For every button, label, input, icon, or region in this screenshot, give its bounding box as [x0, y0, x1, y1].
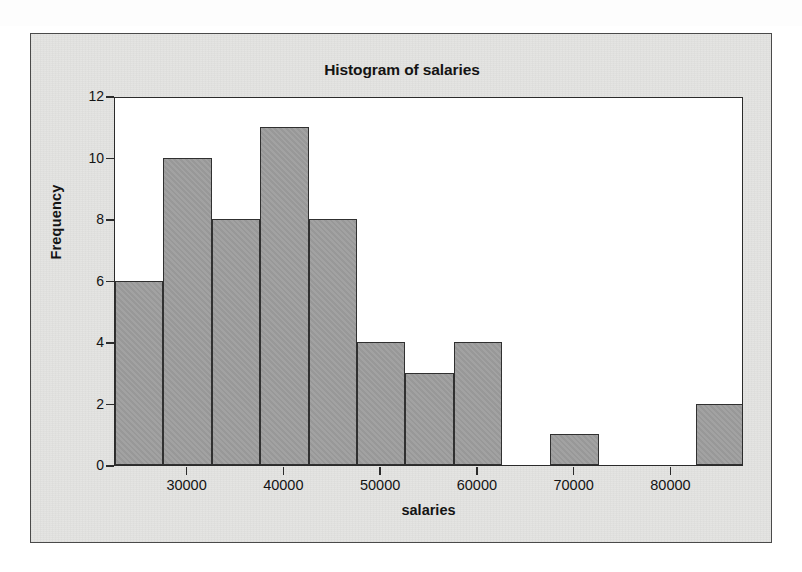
y-axis-tick: [106, 342, 114, 344]
histogram-bar: [550, 434, 598, 465]
x-axis-tick: [283, 467, 285, 475]
histogram-bar: [115, 281, 163, 466]
scan-artifact-top: [0, 0, 802, 26]
x-axis-tick-label: 30000: [142, 477, 232, 493]
y-axis-tick: [106, 281, 114, 283]
y-axis-tick: [106, 96, 114, 98]
x-axis-tick-label: 50000: [335, 477, 425, 493]
x-axis-title: salaries: [114, 502, 743, 518]
x-axis-tick-label: 80000: [625, 477, 715, 493]
x-axis-tick: [379, 467, 381, 475]
y-axis-tick-label: 10: [64, 150, 104, 166]
y-axis-tick-label: 4: [64, 334, 104, 350]
histogram-bar: [260, 127, 308, 465]
y-axis-tick-label: 6: [64, 273, 104, 289]
x-axis-tick: [476, 467, 478, 475]
histogram-bar: [212, 219, 260, 465]
histogram-bar: [309, 219, 357, 465]
histogram-bar: [357, 342, 405, 465]
y-axis-tick: [106, 219, 114, 221]
histogram-figure: Histogram of salaries 024681012 30000400…: [30, 33, 772, 543]
y-axis-tick: [106, 465, 114, 467]
histogram-bars: [115, 98, 742, 465]
y-axis-tick-label: 12: [64, 88, 104, 104]
y-axis-tick: [106, 158, 114, 160]
x-axis-tick: [670, 467, 672, 475]
x-axis-tick-label: 60000: [432, 477, 522, 493]
x-axis-tick: [573, 467, 575, 475]
histogram-bar: [405, 373, 453, 465]
plot-area: [114, 97, 743, 466]
y-axis-tick-label: 2: [64, 396, 104, 412]
y-axis-tick-label: 0: [64, 457, 104, 473]
chart-title: Histogram of salaries: [31, 61, 773, 79]
histogram-bar: [163, 158, 211, 466]
x-axis-tick-label: 40000: [238, 477, 328, 493]
y-axis-tick-label: 8: [64, 211, 104, 227]
y-axis-tick: [106, 404, 114, 406]
histogram-bar: [696, 404, 742, 466]
x-axis-tick: [186, 467, 188, 475]
x-axis-tick-label: 70000: [529, 477, 619, 493]
histogram-bar: [454, 342, 502, 465]
y-axis-title: Frequency: [48, 142, 64, 302]
